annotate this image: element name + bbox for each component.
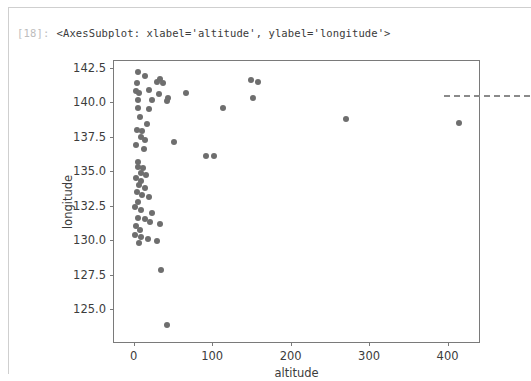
y-tick-mark [110, 68, 114, 69]
x-tick-label: 200 [280, 349, 302, 363]
output-prompt-row: [18]:<AxesSubplot: xlabel='altitude', yl… [17, 26, 391, 40]
scatter-point [456, 120, 462, 126]
scatter-point [132, 232, 138, 238]
y-tick-label: 130.0 [73, 233, 106, 247]
scatter-point [139, 192, 145, 198]
scatter-point [135, 97, 141, 103]
x-tick-label: 100 [201, 349, 223, 363]
scatter-point [248, 77, 254, 83]
scatter-point [149, 210, 155, 216]
scatter-point [154, 238, 160, 244]
scatter-point [146, 194, 152, 200]
scatter-point [255, 79, 261, 85]
y-tick-mark [110, 240, 114, 241]
scatter-point [136, 90, 142, 96]
y-tick-mark [110, 102, 114, 103]
scatter-point [135, 69, 141, 75]
y-tick-label: 142.5 [73, 61, 106, 75]
scatter-point [138, 207, 144, 213]
y-tick-mark [110, 137, 114, 138]
scatter-point [147, 219, 153, 225]
notebook-output-cell: [18]:<AxesSubplot: xlabel='altitude', yl… [8, 7, 531, 374]
scatter-point [143, 172, 149, 178]
y-tick-label: 135.0 [73, 164, 106, 178]
output-prompt-label: [18]: [17, 27, 50, 39]
scatter-point [142, 137, 148, 143]
y-tick-mark [110, 309, 114, 310]
plot-area: altitude 125.0127.5130.0132.5135.0137.51… [113, 60, 480, 343]
y-tick-mark [110, 275, 114, 276]
scatter-point [135, 215, 141, 221]
scatter-point [142, 185, 148, 191]
scatter-point [149, 97, 155, 103]
y-tick-mark [110, 171, 114, 172]
scatter-point [183, 90, 189, 96]
scatter-point [136, 240, 142, 246]
y-tick-label: 140.0 [73, 95, 106, 109]
scatter-point [146, 87, 152, 93]
scatter-point [171, 139, 177, 145]
scatter-point [343, 116, 349, 122]
scatter-point [142, 73, 148, 79]
x-tick-mark [134, 342, 135, 346]
scatter-point [137, 227, 143, 233]
y-tick-label: 132.5 [73, 199, 106, 213]
y-tick-label: 125.0 [73, 302, 106, 316]
scatter-point [203, 153, 209, 159]
dashed-reference-line [444, 95, 530, 97]
x-tick-mark [291, 342, 292, 346]
scatter-point [137, 114, 143, 120]
x-tick-label: 400 [437, 349, 459, 363]
scatter-point [141, 146, 147, 152]
x-tick-mark [448, 342, 449, 346]
matplotlib-figure: longitude altitude 125.0127.5130.0132.51… [9, 48, 531, 381]
y-tick-mark [110, 206, 114, 207]
scatter-point [158, 267, 164, 273]
scatter-point [146, 106, 152, 112]
scatter-point [145, 236, 151, 242]
scatter-point [134, 80, 140, 86]
scatter-point [144, 121, 150, 127]
scatter-point [156, 91, 162, 97]
scatter-point [133, 142, 139, 148]
scatter-point [220, 105, 226, 111]
x-tick-label: 0 [130, 349, 137, 363]
y-tick-label: 127.5 [73, 268, 106, 282]
scatter-point [164, 98, 170, 104]
scatter-point [135, 105, 141, 111]
scatter-point [157, 221, 163, 227]
scatter-point [164, 322, 170, 328]
output-repr-text: <AxesSubplot: xlabel='altitude', ylabel=… [57, 27, 391, 39]
scatter-point [250, 95, 256, 101]
x-axis-title: altitude [274, 366, 318, 380]
x-tick-label: 300 [358, 349, 380, 363]
scatter-point [160, 80, 166, 86]
x-tick-mark [369, 342, 370, 346]
scatter-point [211, 153, 217, 159]
x-tick-mark [212, 342, 213, 346]
y-tick-label: 137.5 [73, 130, 106, 144]
